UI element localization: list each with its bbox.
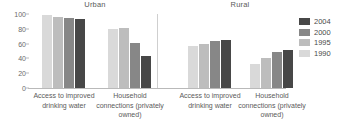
bar bbox=[283, 50, 293, 88]
x-axis-category-label: Access to improved drinking water bbox=[176, 91, 244, 110]
plot-area bbox=[28, 14, 286, 88]
bar bbox=[210, 41, 220, 88]
legend-label: 1995 bbox=[314, 39, 331, 46]
bar-group bbox=[42, 14, 85, 88]
y-axis-tick-label: 100 bbox=[14, 11, 26, 18]
legend-swatch bbox=[299, 29, 310, 36]
y-axis-tick-label: 60 bbox=[18, 40, 26, 47]
x-axis-baseline bbox=[28, 88, 286, 89]
legend-item: 2004 bbox=[299, 18, 331, 25]
bar bbox=[130, 43, 140, 88]
bar bbox=[261, 58, 271, 88]
legend-swatch bbox=[299, 18, 310, 25]
legend-swatch bbox=[299, 39, 310, 46]
legend-item: 1995 bbox=[299, 39, 331, 46]
bar bbox=[64, 18, 74, 88]
bar bbox=[221, 40, 231, 88]
legend-label: 2000 bbox=[314, 29, 331, 36]
bar bbox=[42, 15, 52, 88]
chart-legend: 2004200019951990 bbox=[299, 18, 331, 57]
y-axis-tick-label: 20 bbox=[18, 70, 26, 77]
legend-label: 1990 bbox=[314, 50, 331, 57]
x-axis-category-label: Household connections (privately owned) bbox=[96, 91, 164, 120]
bar bbox=[141, 56, 151, 88]
y-axis-tick-label: 40 bbox=[18, 55, 26, 62]
legend-swatch bbox=[299, 50, 310, 57]
y-axis: 020406080100 bbox=[0, 14, 26, 88]
legend-label: 2004 bbox=[314, 18, 331, 25]
bar-group bbox=[250, 14, 293, 88]
bar bbox=[250, 64, 260, 88]
bar-group bbox=[188, 14, 231, 88]
bar bbox=[53, 17, 63, 88]
panel-title-urban: Urban bbox=[60, 0, 130, 9]
legend-item: 1990 bbox=[299, 50, 331, 57]
bar bbox=[119, 28, 129, 88]
bar bbox=[188, 46, 198, 88]
x-axis-category-label: Access to improved drinking water bbox=[30, 91, 98, 110]
bar-group bbox=[108, 14, 151, 88]
panel-title-rural: Rural bbox=[205, 0, 275, 9]
bar bbox=[199, 44, 209, 88]
x-axis-category-label: Household connections (privately owned) bbox=[238, 91, 306, 120]
chart-container: Urban Rural 020406080100 200420001995199… bbox=[0, 0, 349, 131]
bar bbox=[272, 52, 282, 88]
bar bbox=[108, 29, 118, 88]
y-axis-tick-label: 80 bbox=[18, 25, 26, 32]
bar bbox=[75, 19, 85, 88]
legend-item: 2000 bbox=[299, 29, 331, 36]
